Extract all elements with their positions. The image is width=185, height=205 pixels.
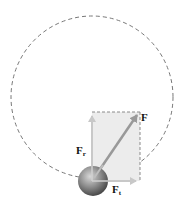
label-ft-subscript: t: [119, 189, 121, 197]
label-fr: Fr: [76, 145, 86, 158]
label-fr-subscript: r: [83, 150, 86, 158]
label-ft: Ft: [112, 184, 121, 197]
label-f: F: [141, 112, 148, 123]
circular-motion-diagram: [0, 0, 185, 205]
label-fr-text: F: [76, 144, 83, 156]
label-f-text: F: [141, 111, 148, 123]
label-ft-text: F: [112, 183, 119, 195]
